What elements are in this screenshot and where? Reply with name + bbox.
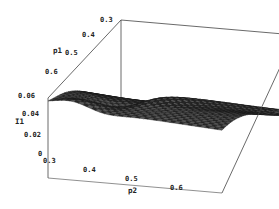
- p2-axis-label: p2: [128, 186, 137, 195]
- p1-tick-2: 0.5: [65, 49, 78, 57]
- z-tick-3: 0.06: [18, 92, 35, 100]
- plot-canvas: 0.3 0.4 0.5 0.6 p1 0.06 0.04 0.02 0 I1 0…: [0, 0, 279, 209]
- p1-tick-3: 0.6: [45, 68, 58, 76]
- p1-tick-1: 0.4: [82, 31, 95, 39]
- p1-tick-0: 0.3: [100, 16, 113, 24]
- i1-axis-label: I1: [15, 117, 25, 126]
- surface-plot: 0.3 0.4 0.5 0.6 p1 0.06 0.04 0.02 0 I1 0…: [0, 0, 279, 209]
- p1-axis-label: p1: [53, 46, 63, 55]
- z-tick-1: 0.02: [24, 131, 41, 139]
- z-tick-2: 0.04: [22, 110, 39, 118]
- surface-mesh: [48, 91, 279, 130]
- z-tick-0: 0: [38, 150, 42, 158]
- p2-tick-1: 0.4: [83, 166, 96, 174]
- p2-tick-2: 0.5: [125, 175, 138, 183]
- p2-tick-0: 0.3: [43, 157, 56, 165]
- p2-tick-3: 0.6: [170, 184, 183, 192]
